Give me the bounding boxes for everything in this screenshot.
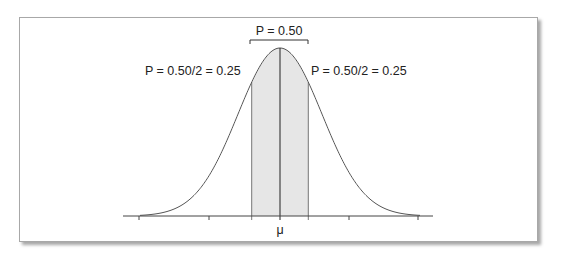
label-left-probability: P = 0.50/2 = 0.25: [145, 64, 241, 78]
x-axis-ticks: [139, 216, 418, 220]
label-top-probability: P = 0.50: [256, 24, 303, 38]
normal-distribution-chart: P = 0.50 P = 0.50/2 = 0.25 P = 0.50/2 = …: [0, 0, 562, 259]
probability-bracket: [250, 40, 308, 44]
label-right-probability: P = 0.50/2 = 0.25: [311, 64, 407, 78]
mean-label: μ: [276, 223, 283, 237]
